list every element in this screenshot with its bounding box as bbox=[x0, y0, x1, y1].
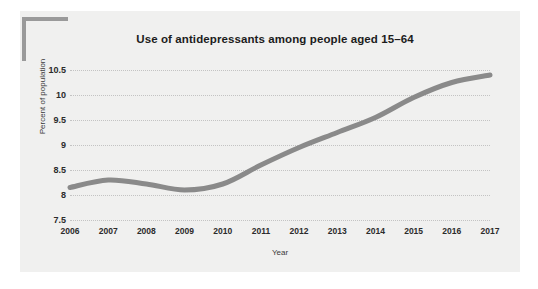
x-axis-tick-labels: 2006200720082009201020112012201320142015… bbox=[70, 226, 490, 240]
y-axis-tick-label: 7.5 bbox=[26, 215, 66, 225]
y-axis-tick-label: 9.5 bbox=[26, 115, 66, 125]
line-series bbox=[70, 70, 490, 220]
chart-figure: Use of antidepressants among people aged… bbox=[0, 0, 538, 289]
y-axis-tick-labels: 7.588.599.51010.5 bbox=[22, 70, 66, 220]
plot-area bbox=[70, 70, 490, 220]
x-axis-title: Year bbox=[70, 248, 490, 257]
series-path-percent-of-population bbox=[70, 75, 490, 190]
y-axis-tick-label: 9 bbox=[26, 140, 66, 150]
y-axis-tick-label: 10 bbox=[26, 90, 66, 100]
x-axis-tick-label: 2017 bbox=[467, 226, 513, 236]
y-axis-tick-label: 8.5 bbox=[26, 165, 66, 175]
chart-title: Use of antidepressants among people aged… bbox=[60, 33, 490, 45]
gridline bbox=[70, 220, 490, 222]
y-axis-tick-label: 10.5 bbox=[26, 65, 66, 75]
y-axis-tick-label: 8 bbox=[26, 190, 66, 200]
